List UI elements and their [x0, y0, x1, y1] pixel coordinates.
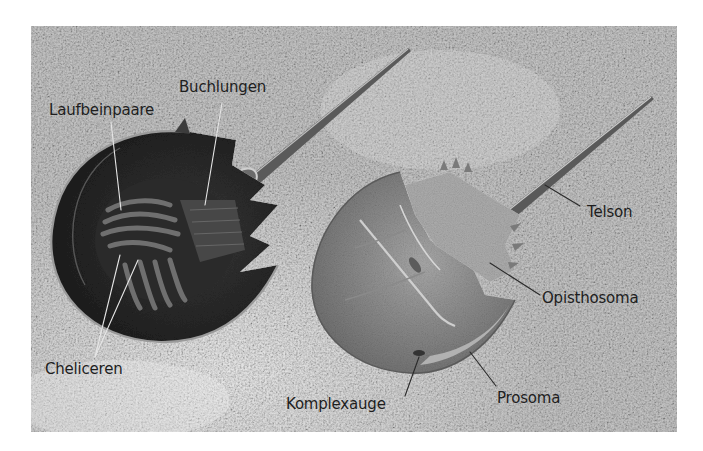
label-komplexauge: Komplexauge — [286, 397, 386, 412]
label-telson: Telson — [587, 205, 632, 220]
label-buchlungen: Buchlungen — [179, 80, 266, 95]
label-laufbeinpaare: Laufbeinpaare — [49, 103, 154, 118]
photograph — [31, 26, 677, 432]
horseshoe-crab-figure: Laufbeinpaare Buchlungen Cheliceren Tels… — [0, 0, 703, 451]
label-cheliceren: Cheliceren — [45, 362, 123, 377]
label-opisthosoma: Opisthosoma — [542, 291, 638, 306]
label-prosoma: Prosoma — [497, 391, 560, 406]
compound-eye — [413, 350, 425, 356]
photo-illustration — [31, 26, 677, 432]
